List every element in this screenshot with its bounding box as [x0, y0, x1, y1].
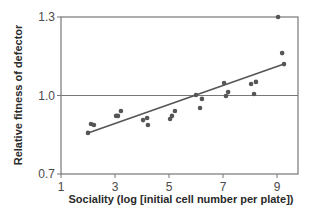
y-tick-label: 1.3	[38, 10, 55, 24]
data-point	[254, 80, 259, 85]
x-tick-label: 1	[58, 180, 65, 194]
data-point	[249, 82, 254, 87]
data-point	[198, 106, 203, 111]
data-point	[200, 97, 205, 102]
x-tick-label: 9	[274, 180, 281, 194]
x-axis-title: Sociality (log [initial cell number per …	[69, 193, 294, 205]
fit-line	[88, 64, 284, 133]
x-axis-ticks: 13579	[58, 174, 281, 194]
data-point	[222, 81, 227, 86]
data-point	[92, 123, 97, 128]
x-tick-label: 3	[112, 180, 119, 194]
data-point	[119, 109, 124, 114]
y-axis-ticks: 0.71.01.3	[38, 10, 61, 181]
data-point	[145, 116, 150, 121]
data-point	[141, 118, 146, 123]
y-tick-label: 1.0	[38, 89, 55, 103]
data-point	[224, 94, 229, 99]
data-point	[146, 123, 151, 128]
x-tick-label: 7	[220, 180, 227, 194]
data-point	[252, 92, 257, 97]
data-point	[280, 51, 285, 56]
y-tick-label: 0.7	[38, 167, 55, 181]
data-point	[276, 15, 281, 20]
data-point	[116, 114, 121, 119]
regression-line	[88, 64, 284, 133]
data-point	[194, 93, 199, 98]
x-tick-label: 5	[166, 180, 173, 194]
data-point	[226, 90, 231, 95]
data-point	[170, 114, 175, 119]
data-points	[86, 15, 287, 136]
data-point	[173, 109, 178, 114]
data-point	[282, 62, 287, 67]
scatter-chart: 13579 0.71.01.3 Sociality (log [initial …	[0, 0, 311, 221]
y-axis-title: Relative fitness of defector	[12, 24, 24, 165]
data-point	[86, 131, 91, 136]
